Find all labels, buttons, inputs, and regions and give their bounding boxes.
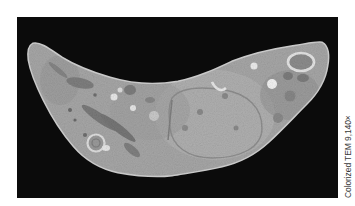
magnification-caption: Colorized TEM 9,140×: [343, 115, 353, 198]
cell-illustration: [17, 17, 338, 198]
micrograph-image: [17, 17, 338, 198]
caption-column: Colorized TEM 9,140×: [338, 17, 355, 198]
cell-body: [17, 17, 338, 198]
